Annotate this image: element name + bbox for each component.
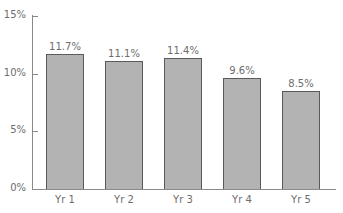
bar (282, 91, 320, 189)
y-tick-label: 5% (0, 124, 26, 135)
bar-value-label: 8.5% (276, 78, 326, 89)
bar (164, 58, 202, 189)
bar-value-label: 11.4% (158, 45, 208, 56)
y-tick-mark (32, 16, 38, 17)
y-axis (32, 15, 33, 190)
x-tick-label: Yr 2 (99, 194, 149, 205)
bar (105, 61, 143, 189)
y-tick-mark (32, 74, 38, 75)
x-tick-label: Yr 5 (276, 194, 326, 205)
y-tick-mark (32, 131, 38, 132)
x-tick-label: Yr 4 (217, 194, 267, 205)
bar (223, 78, 261, 189)
bar (46, 54, 84, 189)
y-tick-label: 15% (0, 9, 26, 20)
bar-value-label: 11.7% (40, 41, 90, 52)
x-tick-label: Yr 1 (40, 194, 90, 205)
bar-chart: 0%5%10%15% 11.7%Yr 111.1%Yr 211.4%Yr 39.… (0, 0, 343, 213)
x-axis (32, 189, 336, 190)
y-tick-label: 0% (0, 182, 26, 193)
x-tick-label: Yr 3 (158, 194, 208, 205)
y-tick-label: 10% (0, 67, 26, 78)
bar-value-label: 11.1% (99, 48, 149, 59)
bar-value-label: 9.6% (217, 65, 267, 76)
